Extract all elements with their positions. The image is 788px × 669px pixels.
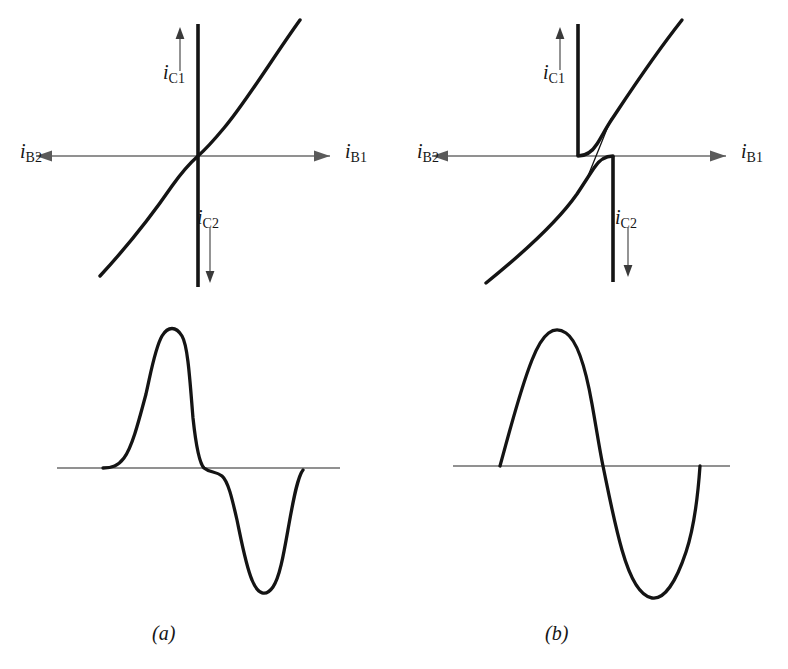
panel-a-transfer-plot xyxy=(36,20,330,287)
figure-canvas xyxy=(0,0,788,669)
panel-b-ic1-arrowhead xyxy=(556,27,565,39)
panel-b-transfer-plot xyxy=(432,20,726,283)
figure-root: iB2 iB1 iC1 iC2 iB2 iB1 iC1 iC2 (a) (b) xyxy=(0,0,788,669)
panel-b-output-waveform xyxy=(500,330,700,598)
panel-b-ic2-arrowhead xyxy=(624,265,633,277)
panel-b-transfer-crossover-segment xyxy=(588,119,611,176)
panel-b-label-ic1: iC1 xyxy=(543,62,565,82)
panel-a-output-waveform xyxy=(103,329,303,594)
panel-a-caption: (a) xyxy=(152,622,175,645)
panel-a-label-ic2: iC2 xyxy=(197,207,219,227)
panel-a-output-plot xyxy=(57,329,340,594)
panel-a-label-ib1: iB1 xyxy=(345,141,367,161)
panel-b-transfer-curve-upper xyxy=(578,20,682,156)
panel-a-label-ic1: iC1 xyxy=(163,62,185,82)
panel-b-right-arrowhead xyxy=(710,151,726,162)
panel-b-output-plot xyxy=(453,330,730,598)
panel-b-label-ib2: iB2 xyxy=(417,141,439,161)
panel-b-label-ic2: iC2 xyxy=(615,207,637,227)
panel-b-caption: (b) xyxy=(545,622,568,645)
panel-a-transfer-curve xyxy=(100,20,300,276)
panel-a-label-ib2: iB2 xyxy=(20,141,42,161)
panel-a-ic2-arrowhead xyxy=(206,271,215,283)
panel-a-right-arrowhead xyxy=(314,151,330,162)
panel-a-ic1-arrowhead xyxy=(176,27,185,39)
panel-b-label-ib1: iB1 xyxy=(741,141,763,161)
panel-b-transfer-curve-lower xyxy=(486,156,613,283)
